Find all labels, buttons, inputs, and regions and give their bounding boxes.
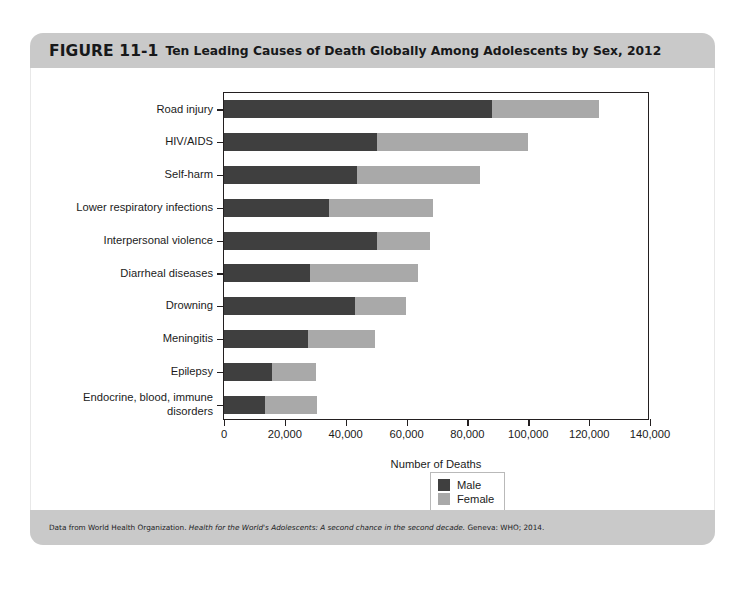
source-prefix: Data from World Health Organization. [49,523,189,532]
bar-segment-female [329,199,433,217]
x-axis-title: Number of Deaths [223,458,649,470]
x-axis-tick [407,419,408,426]
y-axis-label: Lower respiratory infections [23,201,213,214]
x-axis-tick [528,419,529,426]
x-axis-tick [346,419,347,426]
x-axis-tick [224,419,225,426]
legend-swatch-female [438,493,450,505]
y-axis-label: Drowning [23,299,213,312]
bar-segment-female [308,330,375,348]
y-axis-tick [217,109,224,110]
bar-segment-female [355,297,405,315]
x-axis-tick-label: 140,000 [630,428,670,440]
figure-number: FIGURE 11-1 [49,42,158,60]
x-axis-tick-label: 100,000 [508,428,548,440]
stacked-bar [224,133,648,151]
stacked-bar [224,330,648,348]
x-axis-tick [467,419,468,426]
plot-frame: Road injuryHIV/AIDSSelf-harmLower respir… [223,92,649,420]
stacked-bar [224,396,648,414]
x-axis-tick [650,419,651,426]
bar-segment-female [310,264,418,282]
bar-row: Diarrheal diseases [224,257,648,290]
y-axis-tick [217,339,224,340]
bar-segment-male [224,100,492,118]
bar-row: Interpersonal violence [224,224,648,257]
x-axis-tick [589,419,590,426]
bar-segment-male [224,330,308,348]
figure-body: Road injuryHIV/AIDSSelf-harmLower respir… [30,68,715,510]
y-axis-label: Meningitis [23,332,213,345]
bar-segment-male [224,232,377,250]
x-axis-tick-label: 80,000 [450,428,484,440]
bar-segment-male [224,166,357,184]
bar-segment-female [377,232,429,250]
stacked-bar [224,199,648,217]
stacked-bar [224,100,648,118]
legend-label-male: Male [457,479,481,491]
y-axis-label: Interpersonal violence [23,234,213,247]
x-axis-tick-label: 0 [221,428,227,440]
stacked-bar [224,297,648,315]
bar-row: Drowning [224,290,648,323]
x-axis-tick [285,419,286,426]
y-axis-label: Self-harm [23,168,213,181]
y-axis-tick [217,142,224,143]
x-axis-tick-label: 120,000 [569,428,609,440]
y-axis-label: Endocrine, blood, immune disorders [23,391,213,418]
y-axis-label: Road injury [23,103,213,116]
source-suffix: Geneva: WHO; 2014. [465,523,544,532]
bar-row: Self-harm [224,159,648,192]
figure-card: FIGURE 11-1 Ten Leading Causes of Death … [30,33,715,545]
y-axis-label: Epilepsy [23,365,213,378]
bar-segment-male [224,133,377,151]
bar-row: Epilepsy [224,355,648,388]
bar-row: Road injury [224,93,648,126]
y-axis-tick [217,405,224,406]
y-axis-tick [217,273,224,274]
y-axis-tick [217,372,224,373]
y-axis-tick [217,208,224,209]
source-title: Health for the World's Adolescents: A se… [189,523,465,532]
y-axis-tick [217,306,224,307]
stacked-bar [224,232,648,250]
bar-segment-female [357,166,480,184]
y-axis-tick [217,175,224,176]
bar-row: Lower respiratory infections [224,191,648,224]
figure-source: Data from World Health Organization. Hea… [49,523,544,532]
stacked-bar [224,264,648,282]
bar-segment-male [224,396,265,414]
stacked-bar [224,166,648,184]
legend-label-female: Female [457,493,494,505]
bar-segment-female [265,396,316,414]
bar-segment-female [377,133,527,151]
stacked-bar [224,363,648,381]
figure-footer: Data from World Health Organization. Hea… [30,510,715,545]
chart-legend: Male Female [430,472,505,512]
y-axis-label: HIV/AIDS [23,135,213,148]
bar-segment-male [224,297,355,315]
bar-row: Meningitis [224,323,648,356]
y-axis-tick [217,241,224,242]
x-axis-tick-label: 20,000 [268,428,302,440]
x-axis-tick-label: 40,000 [329,428,363,440]
chart-area: Road injuryHIV/AIDSSelf-harmLower respir… [31,68,716,510]
bar-row: HIV/AIDS [224,126,648,159]
y-axis-label: Diarrheal diseases [23,267,213,280]
legend-item-male: Male [438,478,494,492]
bar-segment-female [272,363,316,381]
legend-item-female: Female [438,492,494,506]
figure-title: Ten Leading Causes of Death Globally Amo… [165,44,661,58]
bar-segment-female [492,100,599,118]
legend-swatch-male [438,479,450,491]
x-axis-tick-label: 60,000 [389,428,423,440]
bar-row: Endocrine, blood, immune disorders [224,388,648,421]
figure-header: FIGURE 11-1 Ten Leading Causes of Death … [30,33,715,68]
bar-segment-male [224,264,310,282]
bar-segment-male [224,363,272,381]
bar-segment-male [224,199,329,217]
